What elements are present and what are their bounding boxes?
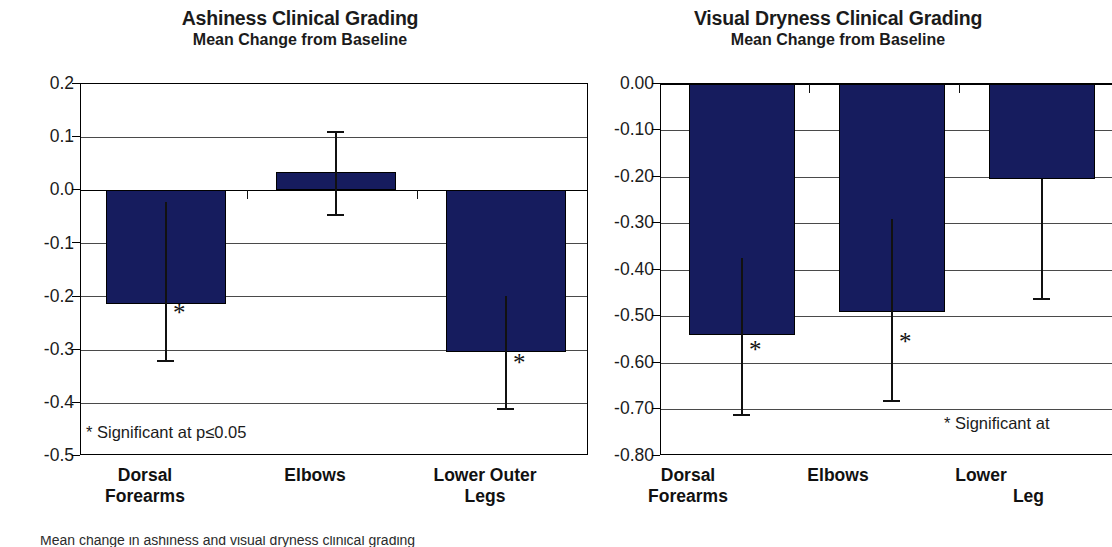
y-tick-label-1: 0.1 xyxy=(4,128,74,146)
x-axis-label-line1: Elbows xyxy=(255,465,375,486)
gridline xyxy=(81,137,587,138)
gridline xyxy=(661,409,1112,410)
x-axis-tick xyxy=(809,84,810,93)
chart-panel-ashiness: Ashiness Clinical Grading Mean Change fr… xyxy=(0,0,600,547)
chart-title: Visual Dryness Clinical Grading xyxy=(588,6,1088,30)
significance-asterisk-elbows: * xyxy=(899,329,912,354)
x-axis-label-line1: Elbows xyxy=(778,465,898,486)
caption-text: Mean change in ashiness and visual dryne… xyxy=(40,536,1060,547)
y-tick-label-3: -0.1 xyxy=(4,235,74,253)
y-tick-label-4: -0.2 xyxy=(4,288,74,306)
x-axis-tick xyxy=(959,84,960,93)
y-tick-mark xyxy=(72,83,80,84)
y-tick-mark xyxy=(72,242,80,243)
error-bar-cap-lower xyxy=(733,414,750,416)
chart-panel-visual-dryness: Visual Dryness Clinical Grading Mean Cha… xyxy=(600,0,1100,547)
y-tick-label-4: -0.40 xyxy=(574,261,654,279)
y-tick-mark xyxy=(652,362,660,363)
error-bar-elbows xyxy=(891,219,893,400)
y-tick-label-8: -0.80 xyxy=(574,447,654,465)
x-axis-tick xyxy=(417,190,418,199)
significance-asterisk-dorsal-forearms: * xyxy=(749,337,762,362)
error-bar-cap-lower xyxy=(497,408,514,410)
y-tick-mark xyxy=(652,455,660,456)
x-axis-label-elbows: Elbows xyxy=(778,465,898,486)
x-axis-label-line1: Lower xyxy=(918,465,1044,486)
x-axis-label-line2: Legs xyxy=(415,486,555,507)
y-tick-label-7: -0.70 xyxy=(574,400,654,418)
x-axis-label-line1: Dorsal xyxy=(85,465,205,486)
x-axis-label-elbows: Elbows xyxy=(255,465,375,486)
y-tick-label-1: -0.10 xyxy=(574,121,654,139)
gridline xyxy=(661,363,1112,364)
chart-subtitle: Mean Change from Baseline xyxy=(0,30,600,50)
y-tick-label-2: 0.0 xyxy=(4,181,74,199)
x-axis-label-lower-outer-legs: Lower Leg xyxy=(918,465,1044,507)
y-tick-label-3: -0.30 xyxy=(574,214,654,232)
y-tick-label-6: -0.60 xyxy=(574,354,654,372)
significance-note: * Significant at p≤0.05 xyxy=(86,423,246,441)
y-tick-label-0: 0.00 xyxy=(574,75,654,93)
significance-asterisk-dorsal-forearms: * xyxy=(173,300,186,325)
x-axis-label-line2: Leg xyxy=(918,486,1044,507)
bar-lower-outer-legs xyxy=(989,84,1095,179)
error-bar-cap-lower xyxy=(1033,298,1050,300)
y-tick-mark xyxy=(652,222,660,223)
x-axis-label-lower-outer-legs: Lower Outer Legs xyxy=(415,465,555,507)
x-axis-label-line1: Dorsal xyxy=(628,465,748,486)
significance-asterisk-lower-outer-legs: * xyxy=(513,350,526,375)
x-axis-tick xyxy=(247,190,248,199)
x-axis-label-dorsal-forearms: Dorsal Forearms xyxy=(85,465,205,507)
chart-title-block-visual-dryness: Visual Dryness Clinical Grading Mean Cha… xyxy=(588,6,1088,50)
y-tick-mark xyxy=(652,408,660,409)
y-tick-label-5: -0.3 xyxy=(4,341,74,359)
x-axis-label-line2: Forearms xyxy=(628,486,748,507)
y-tick-label-7: -0.5 xyxy=(4,447,74,465)
y-tick-mark xyxy=(652,129,660,130)
y-tick-label-2: -0.20 xyxy=(574,168,654,186)
x-axis-label-dorsal-forearms: Dorsal Forearms xyxy=(628,465,748,507)
error-bar-cap-upper xyxy=(327,131,344,133)
plot-area-ashiness: * * * Significant at p≤0.05 xyxy=(80,83,588,455)
error-bar-dorsal-forearms xyxy=(165,202,167,360)
error-bar-cap-lower xyxy=(327,214,344,216)
y-tick-mark xyxy=(72,296,80,297)
y-tick-mark xyxy=(72,136,80,137)
y-tick-mark xyxy=(72,189,80,190)
significance-note: * Significant at xyxy=(944,414,1049,432)
y-tick-label-0: 0.2 xyxy=(4,75,74,93)
error-bar-dorsal-forearms xyxy=(741,258,743,414)
caption-sliver: Mean change in ashiness and visual dryne… xyxy=(40,536,1060,547)
gridline xyxy=(81,403,587,404)
chart-subtitle: Mean Change from Baseline xyxy=(588,30,1088,50)
error-bar-cap-lower xyxy=(157,360,174,362)
y-tick-mark xyxy=(72,455,80,456)
y-tick-mark xyxy=(652,176,660,177)
error-bar-elbows xyxy=(335,131,337,214)
plot-area-visual-dryness: * * * Significant at xyxy=(660,83,1112,455)
error-bar-lower-outer-legs xyxy=(505,296,507,408)
y-tick-mark xyxy=(652,83,660,84)
y-tick-mark xyxy=(652,315,660,316)
y-tick-label-6: -0.4 xyxy=(4,394,74,412)
error-bar-lower-outer-legs xyxy=(1041,179,1043,298)
chart-title: Ashiness Clinical Grading xyxy=(0,6,600,30)
y-tick-mark xyxy=(652,269,660,270)
y-tick-label-5: -0.50 xyxy=(574,307,654,325)
y-tick-mark xyxy=(72,402,80,403)
x-axis-label-line2: Forearms xyxy=(85,486,205,507)
error-bar-cap-lower xyxy=(883,400,900,402)
chart-title-block-ashiness: Ashiness Clinical Grading Mean Change fr… xyxy=(0,6,600,50)
y-tick-mark xyxy=(72,349,80,350)
x-axis-label-line1: Lower Outer xyxy=(415,465,555,486)
